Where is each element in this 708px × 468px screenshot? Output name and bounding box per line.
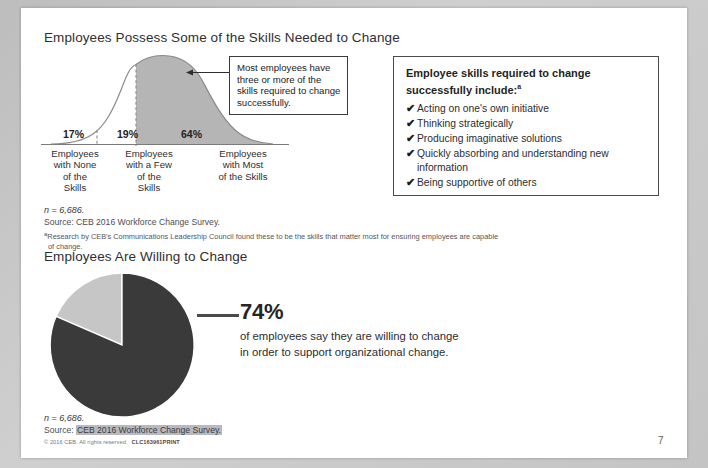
skill-item-label: Thinking strategically (417, 117, 648, 131)
footnote-source-prefix: Source: (44, 425, 74, 435)
category-label-few: Employees with a Few of the Skills (113, 148, 185, 194)
pie-leader-line (197, 314, 239, 317)
skill-item: ✔ Quickly absorbing and understanding ne… (406, 147, 648, 174)
skills-box-heading: Employee skills required to change succe… (406, 66, 648, 97)
stat-description: of employees say they are willing to cha… (240, 329, 470, 360)
curve-category-labels: Employees with None of the Skills Employ… (39, 148, 299, 194)
percent-label-none: 17% (63, 128, 84, 140)
slide-content: Employees Possess Some of the Skills Nee… (21, 8, 687, 458)
document-code: CLC163961PRINT (132, 439, 180, 445)
skill-item-label: Producing imaginative solutions (417, 132, 648, 146)
check-icon: ✔ (406, 117, 417, 131)
skill-item: ✔ Producing imaginative solutions (406, 132, 648, 146)
skill-item-label: Being supportive of others (417, 176, 648, 190)
copyright-text: © 2016 CEB. All rights reserved. (44, 439, 128, 445)
curve-baseline-axis (41, 144, 289, 145)
willingness-pie-chart (47, 270, 197, 420)
check-icon: ✔ (406, 147, 417, 161)
section-two-title: Employees Are Willing to Change (44, 249, 247, 264)
category-label-none: Employees with None of the Skills (39, 148, 111, 194)
skills-required-box: Employee skills required to change succe… (393, 56, 659, 196)
slide-canvas: Employees Possess Some of the Skills Nee… (21, 8, 687, 458)
skill-item: ✔ Being supportive of others (406, 176, 648, 190)
category-label-most: Employees with Most of the Skills (195, 148, 291, 194)
section-one-title: Employees Possess Some of the Skills Nee… (44, 30, 400, 45)
check-icon: ✔ (406, 176, 417, 190)
willingness-stat-block: 74% of employees say they are willing to… (240, 300, 470, 360)
check-icon: ✔ (406, 102, 417, 116)
skill-item: ✔ Thinking strategically (406, 117, 648, 131)
copyright-line: © 2016 CEB. All rights reserved.CLC16396… (44, 439, 180, 445)
callout-arrow-icon (186, 68, 231, 77)
skills-box-heading-text: Employee skills required to change succe… (406, 67, 591, 96)
footnote-source: Source: CEB 2016 Workforce Change Survey… (44, 217, 644, 227)
footnote-research-line1: Research by CEB's Communications Leaders… (47, 232, 498, 241)
section-one-footnotes: n = 6,686. Source: CEB 2016 Workforce Ch… (44, 205, 644, 252)
stat-number: 74% (240, 300, 470, 324)
footnote-sample-size: n = 6,686. (44, 413, 444, 423)
skills-box-heading-superscript: a (517, 83, 521, 90)
percent-label-most: 64% (181, 128, 202, 140)
percent-label-few: 19% (117, 128, 138, 140)
skill-item-label: Quickly absorbing and understanding new … (417, 147, 648, 174)
skill-item-label: Acting on one's own initiative (417, 102, 648, 116)
footnote-source-highlighted-text[interactable]: CEB 2016 Workforce Change Survey. (76, 425, 222, 435)
check-icon: ✔ (406, 132, 417, 146)
curve-percent-labels: 17% 19% 64% (41, 128, 309, 144)
page-number: 7 (658, 435, 664, 446)
pie-chart-svg (47, 270, 197, 420)
footnote-source: Source: CEB 2016 Workforce Change Survey… (44, 425, 444, 435)
skill-item: ✔ Acting on one's own initiative (406, 102, 648, 116)
callout-box: Most employees have three or more of the… (229, 56, 348, 115)
footnote-sample-size: n = 6,686. (44, 205, 644, 215)
section-two-footnotes: n = 6,686. Source: CEB 2016 Workforce Ch… (44, 413, 444, 438)
